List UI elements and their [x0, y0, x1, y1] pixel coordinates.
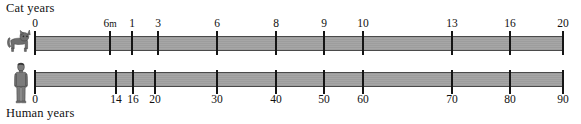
human-tick-label: 90	[557, 94, 569, 106]
human-tick-label: 0	[32, 94, 38, 106]
human-years-caption: Human years	[6, 106, 75, 121]
human-tick	[562, 70, 564, 94]
cat-tick-label: 20	[557, 18, 569, 30]
cat-tick	[131, 31, 133, 55]
human-years-scale: 014162030405060708090	[0, 66, 581, 106]
human-years-bar	[35, 72, 563, 87]
cat-tick-label: 6	[214, 18, 220, 30]
human-tick	[216, 70, 218, 94]
human-tick-label: 16	[127, 94, 139, 106]
cat-tick	[451, 31, 453, 55]
human-tick	[132, 70, 134, 94]
human-tick	[275, 70, 277, 94]
cat-tick-label: 0	[32, 18, 38, 30]
human-tick-label: 40	[270, 94, 282, 106]
cat-tick	[509, 31, 511, 55]
cat-years-scale: 06m1368910131620	[0, 18, 581, 58]
human-tick	[451, 70, 453, 94]
cat-tick	[216, 31, 218, 55]
cat-tick	[323, 31, 325, 55]
human-tick-label: 30	[211, 94, 223, 106]
human-tick	[362, 70, 364, 94]
human-tick	[34, 70, 36, 94]
human-tick	[509, 70, 511, 94]
cat-tick-label: 13	[446, 18, 458, 30]
cat-tick-label: 10	[357, 18, 369, 30]
cat-tick	[362, 31, 364, 55]
human-tick-label: 80	[504, 94, 516, 106]
human-tick	[323, 70, 325, 94]
human-tick-label: 14	[110, 94, 122, 106]
human-tick	[115, 70, 117, 94]
cat-tick-label: 16	[504, 18, 516, 30]
cat-tick	[275, 31, 277, 55]
cat-years-caption: Cat years	[6, 1, 55, 16]
cat-tick	[109, 31, 111, 55]
cat-tick	[157, 31, 159, 55]
cat-years-bar	[35, 36, 563, 51]
cat-tick-label: 3	[155, 18, 161, 30]
cat-tick	[562, 31, 564, 55]
cat-tick-label: 6m	[103, 18, 116, 31]
cat-tick	[34, 31, 36, 55]
cat-tick-label: 8	[273, 18, 279, 30]
human-tick-label: 70	[446, 94, 458, 106]
human-tick-label: 20	[149, 94, 161, 106]
human-tick-label: 60	[357, 94, 369, 106]
human-tick-label: 50	[318, 94, 330, 106]
cat-tick-label: 1	[129, 18, 135, 30]
cat-human-age-scale-figure: Cat years 06	[0, 0, 581, 124]
human-tick	[154, 70, 156, 94]
cat-tick-label: 9	[321, 18, 327, 30]
